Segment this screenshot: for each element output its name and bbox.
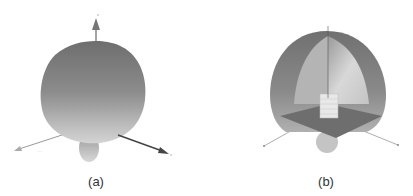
panel-b: (b) (206, 0, 413, 196)
caption-a: (a) (76, 174, 116, 189)
radiation-pattern-a: z - - x (0, 0, 206, 196)
panel-a: z - - x (a) (0, 0, 206, 196)
radiation-pattern-b (206, 0, 413, 196)
svg-text:- -: - - (38, 148, 42, 153)
axis-label-x: x (170, 152, 172, 157)
caption-b: (b) (306, 174, 346, 189)
axis-label-z: z (97, 12, 99, 17)
